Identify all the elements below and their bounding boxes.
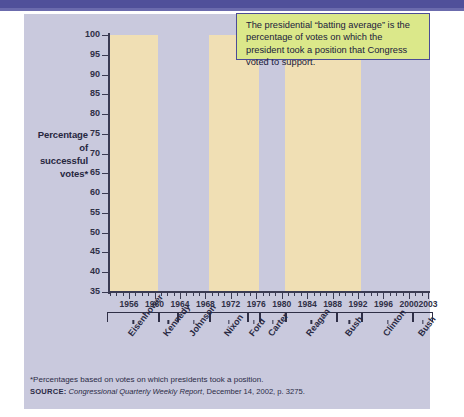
x-tick-label-1984: 1984 xyxy=(298,299,317,309)
y-tick-label-50: 50 xyxy=(72,227,100,237)
y-tick-label-90: 90 xyxy=(72,69,100,79)
x-tick-label-1980: 1980 xyxy=(272,299,291,309)
x-tick-1962 xyxy=(167,293,168,296)
x-tick-2001 xyxy=(415,293,416,296)
y-tick-label-60: 60 xyxy=(72,187,100,197)
y-tick-55 xyxy=(102,213,108,214)
y-tick-90 xyxy=(102,75,108,76)
x-tick-1982 xyxy=(294,293,295,296)
x-tick-1990 xyxy=(345,293,346,296)
y-tick-label-40: 40 xyxy=(72,266,100,276)
x-tick-label-2000: 2000 xyxy=(399,299,418,309)
y-tick-label-35: 35 xyxy=(72,286,100,296)
x-tick-1963 xyxy=(174,293,175,296)
y-tick-40 xyxy=(102,272,108,273)
x-tick-label-1996: 1996 xyxy=(374,299,393,309)
y-axis-title-line-2: of xyxy=(18,141,88,154)
x-tick-1994 xyxy=(371,293,372,296)
x-tick-label-1972: 1972 xyxy=(221,299,240,309)
x-tick-1953 xyxy=(110,293,111,296)
x-tick-1967 xyxy=(199,293,200,296)
x-tick-1969 xyxy=(212,293,213,296)
y-axis-tick-labels: 35404550556065707580859095100 xyxy=(70,0,100,417)
source-publication: Congressional Quarterly Weekly Report xyxy=(69,387,203,396)
x-tick-1998 xyxy=(396,293,397,296)
term-band-reagan-1981 xyxy=(285,35,336,292)
x-tick-1997 xyxy=(390,293,391,296)
y-axis-title-line-3: successful xyxy=(18,154,88,167)
x-tick-label-1976: 1976 xyxy=(247,299,266,309)
y-axis xyxy=(108,33,110,294)
y-axis-title-line-4: votes* xyxy=(18,167,88,180)
x-tick-2002 xyxy=(422,293,423,296)
y-tick-label-45: 45 xyxy=(72,246,100,256)
term-band-nixon-1969 xyxy=(209,35,247,292)
x-tick-1981 xyxy=(288,293,289,296)
x-tick-1974 xyxy=(244,293,245,296)
x-tick-1973 xyxy=(237,293,238,296)
y-tick-50 xyxy=(102,233,108,234)
x-tick-label-2003: 2003 xyxy=(419,299,438,309)
y-tick-35 xyxy=(102,292,108,293)
x-tick-1977 xyxy=(263,293,264,296)
y-tick-label-100: 100 xyxy=(72,29,100,39)
y-tick-95 xyxy=(102,55,108,56)
callout-box: The presidential “batting average” is th… xyxy=(236,13,430,60)
x-tick-1957 xyxy=(135,293,136,296)
y-tick-label-85: 85 xyxy=(72,88,100,98)
callout-text: The presidential “batting average” is th… xyxy=(246,19,421,69)
x-tick-1970 xyxy=(218,293,219,296)
y-tick-85 xyxy=(102,94,108,95)
y-tick-65 xyxy=(102,173,108,174)
y-tick-75 xyxy=(102,134,108,135)
x-tick-1965 xyxy=(186,293,187,296)
x-tick-1958 xyxy=(142,293,143,296)
figure-root: 35404550556065707580859095100 1956196019… xyxy=(0,0,464,417)
x-tick-1987 xyxy=(326,293,327,296)
y-tick-100 xyxy=(102,35,108,36)
y-tick-70 xyxy=(102,154,108,155)
x-tick-1971 xyxy=(224,293,225,296)
source-rest: , December 14, 2002, p. 3275. xyxy=(202,387,305,396)
x-tick-1993 xyxy=(364,293,365,296)
x-tick-1975 xyxy=(250,293,251,296)
x-tick-1959 xyxy=(148,293,149,296)
x-tick-1991 xyxy=(352,293,353,296)
y-tick-80 xyxy=(102,114,108,115)
x-tick-1966 xyxy=(193,293,194,296)
x-tick-1978 xyxy=(269,293,270,296)
x-tick-1983 xyxy=(301,293,302,296)
y-tick-60 xyxy=(102,193,108,194)
y-axis-title: Percentage of successful votes* xyxy=(18,128,88,180)
x-tick-1955 xyxy=(123,293,124,296)
y-tick-45 xyxy=(102,252,108,253)
term-band-ford-1975 xyxy=(247,35,260,292)
x-tick-1954 xyxy=(116,293,117,296)
y-tick-label-80: 80 xyxy=(72,108,100,118)
term-band-bush-1989 xyxy=(336,35,361,292)
x-tick-1989 xyxy=(339,293,340,296)
x-tick-1986 xyxy=(320,293,321,296)
x-tick-1999 xyxy=(403,293,404,296)
y-tick-label-55: 55 xyxy=(72,207,100,217)
x-tick-label-1956: 1956 xyxy=(120,299,139,309)
term-band-eisenhower-1953 xyxy=(110,35,158,292)
x-axis-tick-labels: 1956196019641968197219761980198419881992… xyxy=(0,299,464,313)
plot-area xyxy=(110,35,428,292)
source-note: SOURCE: Congressional Quarterly Weekly R… xyxy=(30,386,430,397)
x-tick-1985 xyxy=(314,293,315,296)
y-axis-title-line-1: Percentage xyxy=(18,128,88,141)
x-tick-label-1992: 1992 xyxy=(349,299,368,309)
plot-background xyxy=(110,35,428,292)
x-tick-1995 xyxy=(377,293,378,296)
y-tick-label-95: 95 xyxy=(72,49,100,59)
source-label: SOURCE: xyxy=(30,387,66,396)
x-tick-1979 xyxy=(275,293,276,296)
footnote: *Percentages based on votes on which pre… xyxy=(30,374,430,385)
